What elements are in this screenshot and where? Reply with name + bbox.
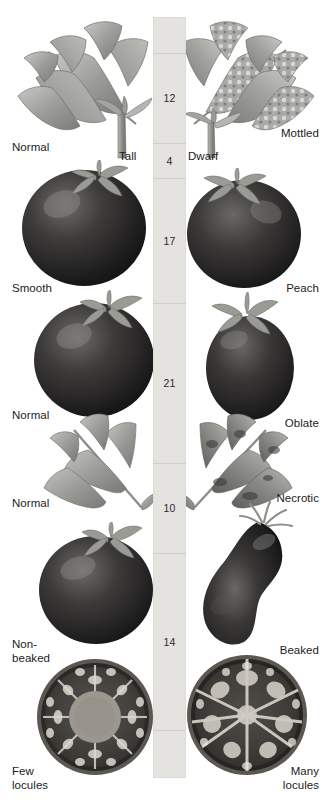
segment-distance-label: 4: [166, 156, 172, 167]
segment-distance-label: 12: [163, 93, 175, 104]
trait-label-beaked: Beaked: [280, 644, 319, 658]
trait-label-many-locules: Many locules: [283, 765, 319, 792]
trait-label-few-locules: Few locules: [12, 765, 48, 792]
chromosome-segment: 12: [153, 53, 186, 143]
segment-distance-label: 17: [163, 236, 175, 247]
segment-distance-label: 14: [163, 637, 175, 648]
chromosome-segment: 4: [153, 143, 186, 178]
trait-label-peach: Peach: [286, 282, 319, 296]
illustration-many-locules-section: [184, 652, 310, 778]
illustration-normal-fruit: [32, 290, 162, 420]
chromosome-segment: 10: [153, 463, 186, 553]
chromosome-linkage-bar: 12 4 17 21 10 14: [153, 17, 186, 778]
illustration-beaked-fruit: [196, 500, 302, 650]
segment-distance-label: 10: [163, 503, 175, 514]
illustration-smooth-fruit: [18, 160, 153, 290]
illustration-few-locules-section: [34, 656, 156, 778]
trait-label-smooth: Smooth: [12, 282, 52, 296]
trait-label-non-beaked: Non- beaked: [12, 638, 50, 665]
chromosome-segment: [153, 730, 186, 778]
trait-label-necrotic: Necrotic: [276, 492, 319, 506]
trait-label-normal-leaflets: Normal: [12, 497, 49, 511]
trait-label-dwarf: Dwarf: [188, 150, 218, 164]
illustration-nonbeaked-fruit: [36, 522, 160, 646]
chromosome-segment: 21: [153, 303, 186, 463]
tomato-linkage-map-figure: 12 4 17 21 10 14 Normal Mottled Tall Dwa…: [0, 0, 327, 808]
illustration-peach-fruit: [182, 168, 307, 290]
trait-label-oblate: Oblate: [285, 417, 319, 431]
trait-label-tall: Tall: [119, 150, 136, 164]
trait-label-normal-fruit: Normal: [12, 409, 49, 423]
trait-label-normal-leaf: Normal: [12, 141, 49, 155]
trait-label-mottled: Mottled: [281, 127, 319, 141]
segment-distance-label: 21: [163, 378, 175, 389]
chromosome-segment: 14: [153, 553, 186, 730]
chromosome-segment: 17: [153, 178, 186, 303]
chromosome-segment: [153, 17, 186, 53]
